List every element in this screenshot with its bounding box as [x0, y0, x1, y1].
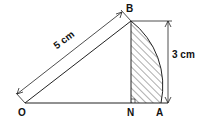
- line-OB: [25, 21, 131, 103]
- dimension-line-5cm: [17, 12, 122, 94]
- geometry-diagram: B O N A 5 cm 3 cm: [0, 0, 201, 129]
- label-point-B: B: [126, 4, 133, 14]
- extension-O: [16, 93, 25, 103]
- label-point-A: A: [156, 108, 163, 118]
- diagram-canvas: [0, 0, 201, 129]
- label-point-O: O: [18, 108, 26, 118]
- shaded-segment: [131, 21, 163, 103]
- label-point-N: N: [127, 108, 134, 118]
- label-3cm: 3 cm: [172, 50, 195, 60]
